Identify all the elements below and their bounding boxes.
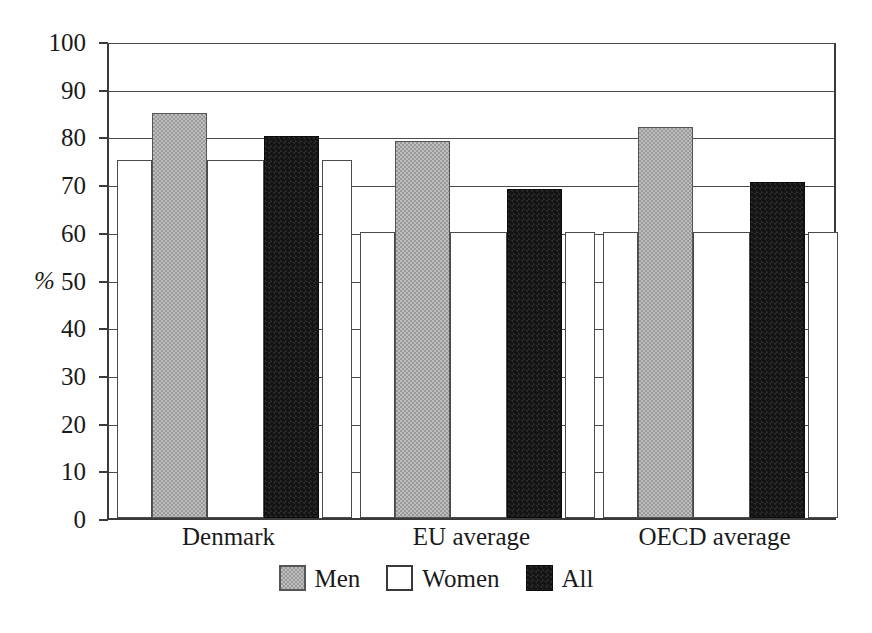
white-empty-square-icon [386,565,413,591]
chart-legend: MenWomenAll [0,565,872,591]
y-axis-tick-label: 60 [30,221,86,246]
bar-women-oecd-average [808,232,838,518]
y-axis-tick-label: 70 [30,173,86,198]
bar-men-denmark [152,113,207,518]
y-axis-tick-label: 80 [30,125,86,150]
bar-series-layer [109,44,834,518]
y-axis-tick-label: 40 [30,316,86,341]
y-axis-tick-label: 20 [30,412,86,437]
bar-men-eu-average [395,141,450,518]
bar-all-oecd-average [750,182,805,518]
legend-label: Women [422,566,499,591]
legend-label: All [562,566,594,591]
y-axis-tick-label: 100 [30,30,86,55]
x-axis-category-label: EU average [350,524,593,549]
bar-women-eu-average [360,232,395,518]
bar-women-oecd-average [603,232,638,518]
bar-chart: % 1009080706050403020100 DenmarkEU avera… [0,0,872,633]
legend-label: Men [315,566,361,591]
bar-men-oecd-average [638,127,693,518]
legend-entry-men[interactable]: Men [279,565,361,591]
bar-all-eu-average [507,189,562,518]
black-filled-square-icon [526,565,553,591]
y-axis-tick-label: 90 [30,78,86,103]
x-axis-category-label: OECD average [593,524,836,549]
bar-women-denmark [322,160,352,518]
legend-entry-women[interactable]: Women [386,565,499,591]
bar-all-denmark [264,136,319,518]
plot-area [107,43,836,520]
bar-women-eu-average [565,232,595,518]
bar-women-denmark [207,160,264,518]
bar-women-eu-average [450,232,507,518]
legend-entry-all[interactable]: All [526,565,594,591]
gray-filled-square-icon [279,565,306,591]
x-axis-category-label: Denmark [107,524,350,549]
bar-women-denmark [117,160,152,518]
y-axis-tick-label: 30 [30,364,86,389]
y-axis-tick-label: 50 [30,269,86,294]
y-axis-tick-label: 0 [30,507,86,532]
y-axis-tick-label: 10 [30,459,86,484]
bar-women-oecd-average [693,232,750,518]
